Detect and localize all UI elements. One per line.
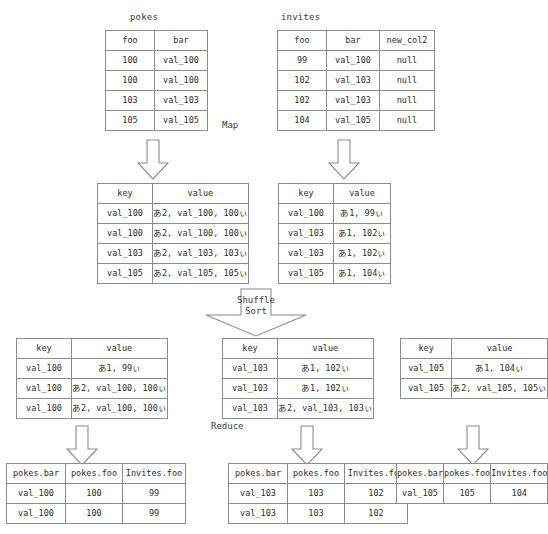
table-cell: あ1, 102ぃ [334, 224, 391, 244]
table-row: val_103 あ1, 102ぃ [279, 244, 391, 264]
map-output-table-right: key value val_100 あ1, 99ぃ val_103 あ1, 10… [278, 183, 391, 284]
table-row: val_100 あ2, val_100, 100ぃ [98, 224, 249, 244]
table-cell: val_105 [397, 484, 444, 504]
table-cell: あ2, val_100, 100ぃ [72, 379, 168, 399]
column-header: value [72, 339, 168, 359]
table-cell: あ2, val_103, 103ぃ [278, 399, 374, 419]
column-header: pokes.foo [288, 464, 345, 484]
table-cell: 102 [278, 71, 327, 91]
table-cell: null [380, 71, 435, 91]
table-cell: 105 [106, 111, 155, 131]
table-row: val_103 あ2, val_103, 103ぃ [98, 244, 249, 264]
table-header-row: key value [401, 339, 548, 359]
table-cell: val_100 [155, 51, 208, 71]
table-row: val_100 100 99 [7, 504, 186, 524]
table-row: val_105 あ2, val_105, 105ぃ [401, 379, 548, 399]
table-cell: val_100 [279, 204, 334, 224]
table-row: 102 val_103 null [278, 71, 435, 91]
table-row: val_105 あ2, val_105, 105ぃ [98, 264, 249, 284]
table-cell: val_103 [279, 224, 334, 244]
table-grid: key value val_103 あ1, 102ぃ val_103 あ1, 1… [222, 338, 374, 419]
table-row: val_100 あ1, 99ぃ [17, 359, 168, 379]
column-header: key [98, 184, 153, 204]
table-cell: val_100 [155, 71, 208, 91]
table-cell: val_103 [223, 359, 278, 379]
table-cell: val_105 [155, 111, 208, 131]
table-header-row: key value [98, 184, 249, 204]
table-cell: 100 [66, 504, 123, 524]
table-cell: val_103 [223, 399, 278, 419]
table-cell: 100 [106, 71, 155, 91]
table-cell: val_100 [17, 399, 72, 419]
table-cell: null [380, 51, 435, 71]
table-grid: key value val_100 あ1, 99ぃ val_100 あ2, va… [16, 338, 168, 419]
column-header: pokes.bar [397, 464, 444, 484]
table-header-row: foo bar new_col2 [278, 31, 435, 51]
table-cell: val_103 [229, 484, 288, 504]
map-stage-label: Map [222, 120, 238, 130]
table-cell: 103 [288, 504, 345, 524]
table-cell: val_100 [98, 224, 153, 244]
table-cell: val_100 [17, 359, 72, 379]
table-cell: 104 [278, 111, 327, 131]
reduce-output-table-left: pokes.bar pokes.foo Invites.foo val_100 … [6, 463, 186, 524]
shuffle-output-table-middle: key value val_103 あ1, 102ぃ val_103 あ1, 1… [222, 338, 374, 419]
table-row: val_105 あ1, 104ぃ [279, 264, 391, 284]
table-row: 103 val_103 [106, 91, 208, 111]
table-cell: 100 [66, 484, 123, 504]
table-grid: key value val_100 あ2, val_100, 100ぃ val_… [97, 183, 249, 284]
table-cell: val_103 [98, 244, 153, 264]
table-cell: val_100 [7, 484, 66, 504]
table-grid: key value val_100 あ1, 99ぃ val_103 あ1, 10… [278, 183, 391, 284]
table-cell: あ1, 99ぃ [334, 204, 391, 224]
table-row: val_103 103 102 [229, 484, 408, 504]
table-cell: val_103 [229, 504, 288, 524]
table-cell: あ2, val_100, 100ぃ [72, 399, 168, 419]
table-cell: val_105 [98, 264, 153, 284]
table-row: val_103 あ2, val_103, 103ぃ [223, 399, 374, 419]
table-row: 105 val_105 [106, 111, 208, 131]
column-header: key [17, 339, 72, 359]
table-row: val_103 あ1, 102ぃ [223, 359, 374, 379]
table-header-row: key value [223, 339, 374, 359]
table-grid: key value val_105 あ1, 104ぃ val_105 あ2, v… [400, 338, 548, 399]
table-cell: 103 [288, 484, 345, 504]
shuffle-label-line2: Sort [221, 306, 291, 317]
table-cell: あ1, 102ぃ [334, 244, 391, 264]
table-cell: val_100 [7, 504, 66, 524]
column-header: value [452, 339, 548, 359]
invites-table-caption: invites [281, 12, 320, 22]
table-row: 104 val_105 null [278, 111, 435, 131]
table-row: val_100 あ2, val_100, 100ぃ [17, 379, 168, 399]
table-cell: val_105 [401, 379, 452, 399]
column-header: new_col2 [380, 31, 435, 51]
mapreduce-diagram: pokes invites foo bar 100 val_100 100 va… [0, 0, 548, 534]
table-cell: null [380, 91, 435, 111]
table-grid: foo bar new_col2 99 val_100 null 102 val… [277, 30, 435, 131]
table-grid: pokes.bar pokes.foo Invites.foo val_105 … [396, 463, 548, 504]
table-cell: あ2, val_103, 103ぃ [153, 244, 249, 264]
table-row: val_105 あ1, 104ぃ [401, 359, 548, 379]
table-cell: あ1, 104ぃ [452, 359, 548, 379]
table-cell: 100 [106, 51, 155, 71]
table-cell: null [380, 111, 435, 131]
reduce-arrow-middle-icon [290, 425, 324, 467]
pokes-table-caption: pokes [130, 12, 158, 22]
shuffle-label-line1: Shuffle [221, 295, 291, 306]
table-cell: 102 [345, 504, 408, 524]
reduce-arrow-right-icon [456, 425, 490, 467]
column-header: foo [278, 31, 327, 51]
column-header: pokes.bar [229, 464, 288, 484]
column-header: pokes.foo [66, 464, 123, 484]
table-row: val_105 105 104 [397, 484, 548, 504]
table-row: val_100 あ2, val_100, 100ぃ [17, 399, 168, 419]
reduce-arrow-left-icon [65, 425, 99, 467]
map-arrow-left-icon [136, 139, 170, 181]
table-cell: あ1, 102ぃ [278, 359, 374, 379]
table-header-row: foo bar [106, 31, 208, 51]
table-cell: val_103 [155, 91, 208, 111]
table-cell: 102 [278, 91, 327, 111]
table-cell: val_105 [327, 111, 380, 131]
table-row: val_100 100 99 [7, 484, 186, 504]
table-cell: あ2, val_100, 100ぃ [153, 204, 249, 224]
